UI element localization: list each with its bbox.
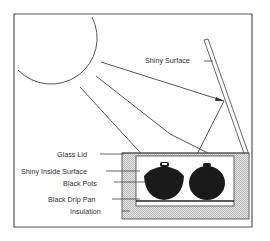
label-glass-lid: Glass Lid — [57, 150, 87, 159]
label-shiny-surface: Shiny Surface — [145, 56, 190, 65]
pot-right-handle — [203, 163, 211, 167]
label-shiny-inside-surface: Shiny Inside Surface — [21, 167, 87, 176]
label-black-drip-pan: Black Drip Pan — [48, 195, 96, 204]
solar-cooker-diagram: Shiny Surface Glass Lid Shiny Inside Sur… — [0, 0, 270, 241]
label-insulation: Insulation — [70, 207, 101, 216]
label-black-pots: Black Pots — [63, 179, 97, 188]
pot-right — [189, 166, 225, 200]
sun-rays — [80, 62, 224, 168]
sun-icon — [18, 17, 97, 84]
shiny-surface-reflector — [204, 39, 249, 156]
